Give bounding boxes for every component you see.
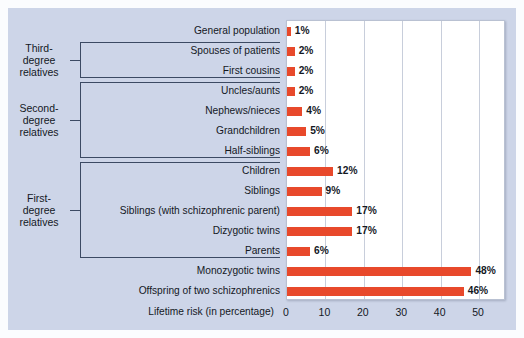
gridline [402,21,403,299]
x-tick-label: 20 [343,306,383,318]
category-label: Siblings (with schizophrenic parent) [28,205,280,216]
bar [287,87,295,96]
value-label: 4% [306,105,321,116]
bar [287,227,352,236]
value-label: 5% [310,125,325,136]
x-tick-label: 10 [304,306,344,318]
plot-area [286,20,505,300]
category-label: Monozygotic twins [28,265,280,276]
value-label: 6% [314,245,329,256]
bar [287,27,291,36]
bar [287,107,302,116]
bar [287,47,295,56]
x-tick-label: 50 [458,306,498,318]
category-label: Nephews/nieces [28,105,280,116]
bracket-tick [70,120,80,121]
value-label: 9% [326,185,341,196]
category-label: Grandchildren [28,125,280,136]
bar [287,147,310,156]
category-label: Spouses of patients [28,45,280,56]
category-label: Children [28,165,280,176]
bar [287,247,310,256]
value-label: 1% [295,25,310,36]
value-label: 2% [299,45,314,56]
bar [287,167,333,176]
category-label: Uncles/aunts [28,85,280,96]
category-label: Offspring of two schizophrenics [28,285,280,296]
value-label: 2% [299,85,314,96]
figure-panel: Third-degreerelativesSecond-degreerelati… [8,8,516,330]
value-label: 17% [356,205,376,216]
value-label: 12% [337,165,357,176]
bar [287,207,352,216]
x-axis-title: Lifetime risk (in percentage) [28,306,274,318]
gridline [325,21,326,299]
x-tick-label: 40 [420,306,460,318]
x-tick-label: 30 [381,306,421,318]
gridline [441,21,442,299]
category-label: Dizygotic twins [28,225,280,236]
bracket-tick [70,60,80,61]
bar [287,267,471,276]
gridline [479,21,480,299]
category-label: First cousins [28,65,280,76]
category-label: Siblings [28,185,280,196]
bar [287,287,464,296]
bar [287,67,295,76]
bar [287,187,322,196]
category-label: General population [28,25,280,36]
value-label: 46% [468,285,488,296]
category-label: Half-siblings [28,145,280,156]
value-label: 17% [356,225,376,236]
value-label: 2% [299,65,314,76]
value-label: 6% [314,145,329,156]
gridline [364,21,365,299]
bar [287,127,306,136]
value-label: 48% [475,265,495,276]
category-label: Parents [28,245,280,256]
